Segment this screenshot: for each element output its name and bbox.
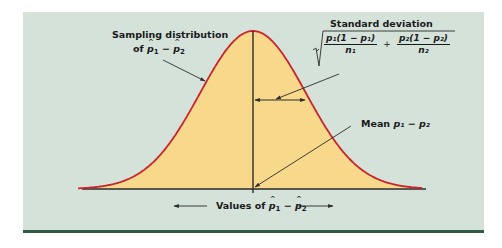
values-of-text: Values of	[216, 200, 269, 211]
sd-plus: +	[383, 39, 391, 49]
sub-2: 2	[180, 48, 185, 56]
bottom-rule	[23, 230, 484, 233]
p2-symbol: p	[173, 43, 180, 54]
mean-label: Mean p₁ − p₂	[361, 118, 430, 129]
sampling-distribution-expr: of p1 − p2	[133, 43, 185, 58]
p-hat-1: p	[147, 43, 154, 54]
minus-sign: −	[159, 43, 174, 54]
sd-numerator-1: p₁(1 − p₁)	[324, 33, 377, 45]
of-text: of	[133, 43, 147, 54]
x-axis-label: Values of p1 − p2	[216, 200, 307, 215]
std-dev-title: Standard deviation	[330, 18, 433, 29]
minus-axis: −	[280, 200, 295, 211]
p-hat-2-axis: p	[295, 200, 302, 211]
mean-expr: p₁ − p₂	[393, 118, 430, 129]
mean-text: Mean	[361, 118, 393, 129]
p2-axis-symbol: p	[295, 200, 302, 211]
sd-denominator-2: n₂	[397, 45, 450, 56]
p-hat-2: p	[173, 43, 180, 54]
sub-2-axis: 2	[302, 205, 307, 213]
p1-symbol: p	[147, 43, 154, 54]
p-hat-1-axis: p	[269, 200, 276, 211]
sd-fraction-1: p₁(1 − p₁)n₁	[324, 33, 377, 56]
sd-numerator-2: p₂(1 − p₂)	[397, 33, 450, 45]
std-dev-formula: p₁(1 − p₁)n₁ + p₂(1 − p₂)n₂	[324, 33, 450, 56]
p1-axis-symbol: p	[269, 200, 276, 211]
sampling-distribution-title: Sampling distribution	[112, 29, 228, 40]
sd-denominator-1: n₁	[324, 45, 377, 56]
sd-fraction-2: p₂(1 − p₂)n₂	[397, 33, 450, 56]
sampling-distribution-label: Sampling distribution	[112, 29, 228, 40]
